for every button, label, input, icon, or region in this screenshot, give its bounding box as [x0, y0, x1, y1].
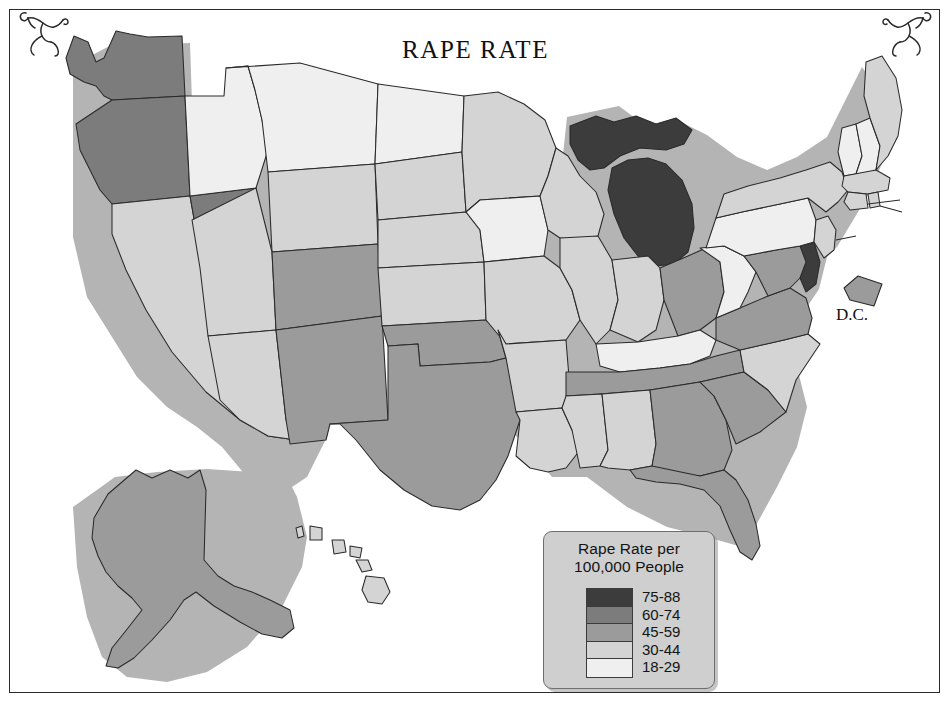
- inset-hawaii-4: [350, 546, 362, 558]
- legend-label-1: 60-74: [642, 606, 680, 624]
- inset-hawaii-3: [332, 540, 346, 554]
- legend-swatch-4: [587, 659, 632, 677]
- leader-line-ri: [880, 206, 902, 212]
- legend-label-2: 45-59: [642, 623, 680, 641]
- map-page: RAPE RATE: [0, 0, 951, 708]
- state-nebraska: [378, 212, 484, 268]
- legend-swatch-0: [587, 589, 632, 607]
- state-kansas: [378, 262, 486, 326]
- legend-swatch-2: [587, 624, 632, 642]
- legend-title: Rape Rate per 100,000 People: [544, 532, 714, 576]
- legend-swatch-column: [586, 588, 633, 678]
- legend-label-4: 18-29: [642, 658, 680, 676]
- legend-swatch-3: [587, 642, 632, 660]
- dc-label: D.C.: [836, 305, 868, 325]
- state-indiana: [610, 256, 664, 342]
- state-alabama: [600, 390, 656, 470]
- map-legend: Rape Rate per 100,000 People 75-88 60-74…: [543, 531, 715, 689]
- inset-hawaii-5: [356, 560, 372, 572]
- inset-hawaii-2: [310, 526, 322, 540]
- inset-hawaii-6: [362, 576, 390, 604]
- state-colorado: [272, 244, 382, 330]
- inset-district-of-columbia: [844, 276, 882, 306]
- legend-swatch-1: [587, 607, 632, 625]
- state-wyoming: [268, 164, 378, 252]
- legend-title-line-1: Rape Rate per: [544, 540, 714, 558]
- inset-hawaii-1: [296, 526, 304, 538]
- legend-label-column: 75-88 60-74 45-59 30-44 18-29: [642, 588, 680, 678]
- legend-label-0: 75-88: [642, 588, 680, 606]
- state-north-dakota: [375, 84, 464, 164]
- legend-body: 75-88 60-74 45-59 30-44 18-29: [586, 588, 680, 678]
- state-rhode-island: [868, 192, 880, 208]
- legend-label-3: 30-44: [642, 641, 680, 659]
- legend-title-line-2: 100,000 People: [544, 558, 714, 576]
- choropleth-map: [0, 0, 951, 708]
- state-south-dakota: [375, 152, 466, 220]
- state-connecticut: [844, 192, 868, 210]
